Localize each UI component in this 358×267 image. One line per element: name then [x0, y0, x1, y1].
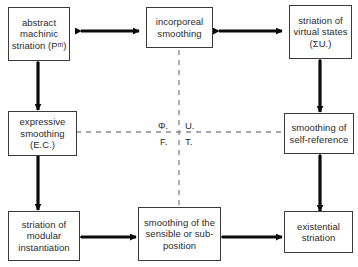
node-label: smoothing of self-reference — [287, 122, 351, 145]
diagram-canvas: abstract machinic striation (Pᵐ) incorpo… — [0, 0, 358, 267]
axis-label-bottom-right: T. — [185, 136, 192, 147]
node-striation-of-virtual-states[interactable]: striation of virtual states (ΣU.) — [289, 5, 352, 59]
axis-label-bottom-left: F. — [160, 136, 167, 147]
node-smoothing-of-self-reference[interactable]: smoothing of self-reference — [284, 113, 354, 154]
node-label: existential striation — [287, 221, 350, 244]
node-incorporeal-smoothing[interactable]: incorporeal smoothing — [146, 7, 213, 48]
node-label: incorporeal smoothing — [149, 16, 210, 39]
node-label: abstract machinic striation (Pᵐ) — [11, 17, 67, 52]
node-expressive-smoothing[interactable]: expressive smoothing (E.C.) — [8, 111, 77, 156]
node-smoothing-of-the-sensible[interactable]: smoothing of the sensible or sub-positio… — [138, 207, 221, 261]
node-striation-of-modular-instantiation[interactable]: striation of modular instantiation — [8, 211, 80, 261]
node-abstract-machinic-striation[interactable]: abstract machinic striation (Pᵐ) — [8, 7, 70, 61]
node-label: striation of modular instantiation — [11, 219, 77, 254]
node-label: striation of virtual states (ΣU.) — [292, 15, 349, 50]
axis-label-top-left: Φ. — [158, 120, 168, 131]
node-label: smoothing of the sensible or sub-positio… — [141, 217, 218, 252]
node-existential-striation[interactable]: existential striation — [284, 211, 353, 253]
axis-label-top-right: U. — [185, 120, 195, 131]
node-label: expressive smoothing (E.C.) — [11, 116, 74, 151]
